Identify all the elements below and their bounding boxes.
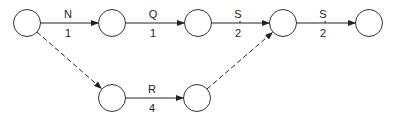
- node-7: [184, 85, 211, 112]
- dummy-edge-n1-n6: [37, 32, 102, 89]
- activity-label-n: N: [64, 8, 72, 20]
- node-1: [14, 10, 41, 37]
- duration-label-s2: 2: [320, 27, 326, 39]
- activity-label-q: Q: [149, 8, 158, 20]
- activity-label-r: R: [148, 83, 156, 95]
- activity-label-s2: S: [319, 8, 326, 20]
- node-6: [99, 85, 126, 112]
- duration-label-q: 1: [150, 27, 156, 39]
- duration-label-n: 1: [65, 27, 71, 39]
- node-3: [185, 10, 212, 37]
- node-5: [356, 10, 383, 37]
- duration-label-r: 4: [149, 102, 155, 114]
- dummy-edge-n7-n4: [207, 32, 273, 89]
- duration-label-s1: 2: [235, 27, 241, 39]
- activity-network-diagram: N 1 Q 1 S 2 S 2 R 4: [0, 0, 394, 115]
- node-4: [270, 10, 297, 37]
- node-2: [99, 10, 126, 37]
- activity-label-s1: S: [234, 8, 241, 20]
